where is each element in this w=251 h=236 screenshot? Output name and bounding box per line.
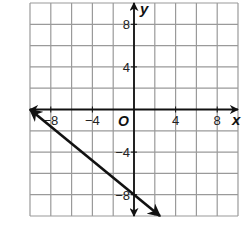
y-tick-label: 8 (123, 17, 130, 32)
origin-label: O (118, 113, 129, 129)
axes (30, 3, 238, 216)
y-tick-label: 4 (123, 60, 130, 75)
x-tick-label: 4 (172, 113, 179, 128)
coordinate-plane: −8−44884−4−8 x y O (0, 0, 251, 236)
y-tick-label: −4 (115, 145, 130, 160)
x-tick-label: −4 (85, 113, 100, 128)
x-tick-label: 8 (214, 113, 221, 128)
x-axis-label: x (231, 111, 241, 128)
y-axis-label: y (139, 0, 149, 17)
